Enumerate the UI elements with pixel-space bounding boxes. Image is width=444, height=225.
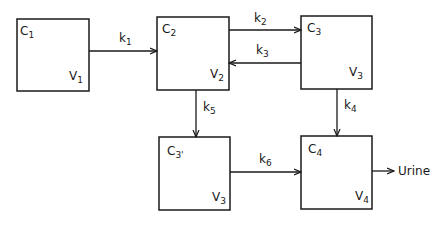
rate-label-k6: k6 [259,153,272,169]
vol-label-c4: V4 [355,190,369,206]
rate-label-k5: k5 [203,101,216,117]
conc-label-c2: C2 [162,23,176,39]
conc-label-c4: C4 [308,143,322,159]
output-label-urine: Urine [398,165,430,177]
conc-label-c3: C3 [307,22,321,38]
conc-label-c3p: C3' [167,145,184,161]
vol-label-c3: V3 [349,66,363,82]
rate-label-k4: k4 [344,99,357,115]
rate-label-k1: k1 [119,32,132,48]
vol-label-c3p: V3 [212,191,226,207]
vol-label-c2: V2 [210,68,224,84]
conc-label-c1: C1 [20,25,34,41]
vol-label-c1: V1 [69,70,83,86]
rate-label-k2: k2 [254,12,267,28]
rate-label-k3: k3 [256,44,269,60]
